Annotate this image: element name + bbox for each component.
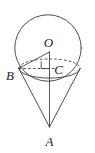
figure-canvas: O B C A: [0, 0, 95, 153]
right-angle-marker: [41, 62, 48, 69]
radius-segment-OB: [19, 52, 50, 69]
label-base-center-c: C: [54, 62, 63, 77]
geometry-figure: O B C A: [0, 0, 95, 153]
label-apex-a: A: [45, 134, 54, 149]
label-base-edge-point-b: B: [6, 68, 14, 83]
label-sphere-center-o: O: [44, 35, 54, 50]
